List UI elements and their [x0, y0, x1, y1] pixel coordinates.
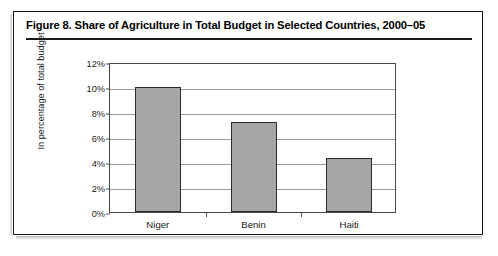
y-tick-label: 0% — [92, 209, 105, 219]
y-tick-mark — [106, 64, 110, 65]
y-axis-title: In percentage of total budget — [36, 15, 46, 167]
y-tick-label: 6% — [92, 134, 105, 144]
bar — [231, 122, 277, 212]
y-tick-mark — [106, 114, 110, 115]
x-tick-mark — [301, 212, 302, 217]
plot-area: 0%2%4%6%8%10%12% NigerBeninHaiti — [109, 63, 396, 213]
x-tick-label: Haiti — [340, 219, 359, 230]
y-tick-mark — [106, 164, 110, 165]
bar — [135, 87, 181, 212]
page-edge-shadow-left — [9, 14, 12, 236]
x-tick-label: Benin — [241, 219, 266, 230]
x-tick-mark — [206, 212, 207, 217]
bar-chart: In percentage of total budget 0%2%4%6%8%… — [14, 12, 484, 236]
y-tick-label: 4% — [92, 159, 105, 169]
figure-container: Figure 8. Share of Agriculture in Total … — [13, 11, 483, 235]
y-tick-label: 10% — [87, 84, 105, 94]
y-tick-label: 8% — [92, 109, 105, 119]
y-tick-mark — [106, 139, 110, 140]
page-edge-shadow-bottom — [16, 236, 482, 240]
y-tick-mark — [106, 189, 110, 190]
y-tick-label: 2% — [92, 184, 105, 194]
y-tick-label: 12% — [87, 59, 105, 69]
y-tick-mark — [106, 214, 110, 215]
bar — [326, 158, 372, 212]
y-tick-mark — [106, 89, 110, 90]
x-tick-label: Niger — [146, 219, 169, 230]
